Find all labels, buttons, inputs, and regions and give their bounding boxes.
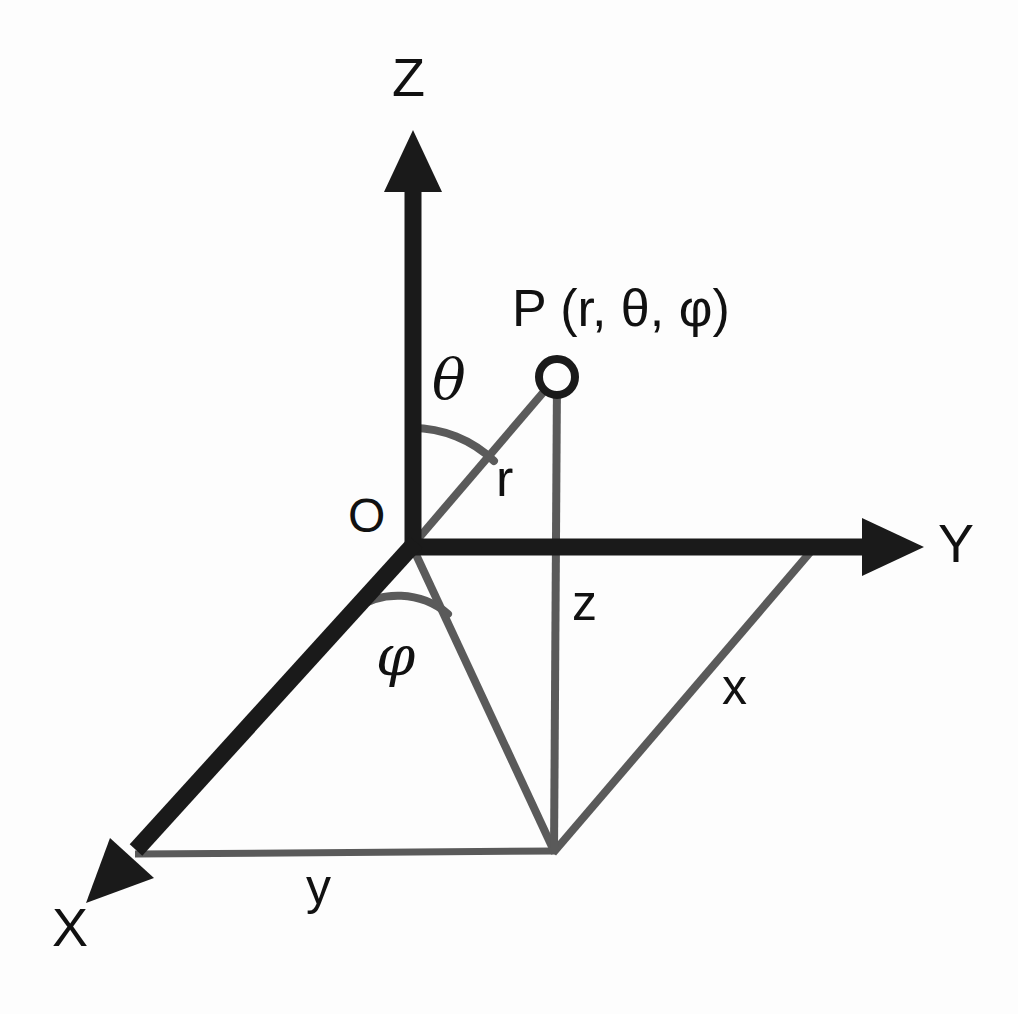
z-axis-arrowhead [384, 130, 442, 192]
y-axis-label: Y [938, 516, 974, 570]
point-p-marker [539, 359, 575, 395]
origin-label: O [348, 492, 385, 540]
side-y-label: y [306, 862, 331, 912]
x-axis-shaft [136, 542, 416, 850]
point-p-label: P (r, θ, φ) [512, 282, 730, 334]
construction-lines [135, 380, 813, 854]
theta-angle-label: θ [432, 352, 466, 408]
phi-angle-label: φ [376, 628, 415, 684]
y-axis-arrowhead [862, 518, 924, 576]
radius-r-label: r [496, 452, 513, 504]
z-axis-label: Z [392, 50, 425, 104]
axis-lines [86, 130, 924, 903]
diagram-canvas [0, 0, 1018, 1014]
vertical-drop-line [554, 380, 557, 853]
projection-line [412, 546, 555, 853]
x-axis-label: X [52, 900, 88, 954]
theta-arc [412, 428, 494, 461]
side-x-label: x [722, 662, 747, 712]
base-edge-lower-line [135, 851, 556, 854]
spherical-coordinate-diagram: Z Y X O P (r, θ, φ) r z x y θ φ [0, 0, 1018, 1014]
height-z-label: z [572, 578, 597, 628]
